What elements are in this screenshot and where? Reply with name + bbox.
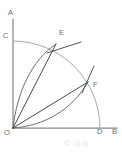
label-d: D [97,127,103,136]
label-o: O [4,128,10,137]
watermark: © ⊙⊙ [64,139,90,148]
label-f: F [93,80,98,89]
geometry-diagram-svg: A B C D E F O [0,0,122,152]
label-a: A [8,8,13,17]
chord-oe [13,44,56,128]
geometry-figure-root: A B C D E F O © ⊙⊙ [0,0,122,152]
label-b: B [112,127,117,136]
label-e: E [59,28,64,37]
tangent-at-e [47,42,81,53]
label-c: C [3,31,9,40]
